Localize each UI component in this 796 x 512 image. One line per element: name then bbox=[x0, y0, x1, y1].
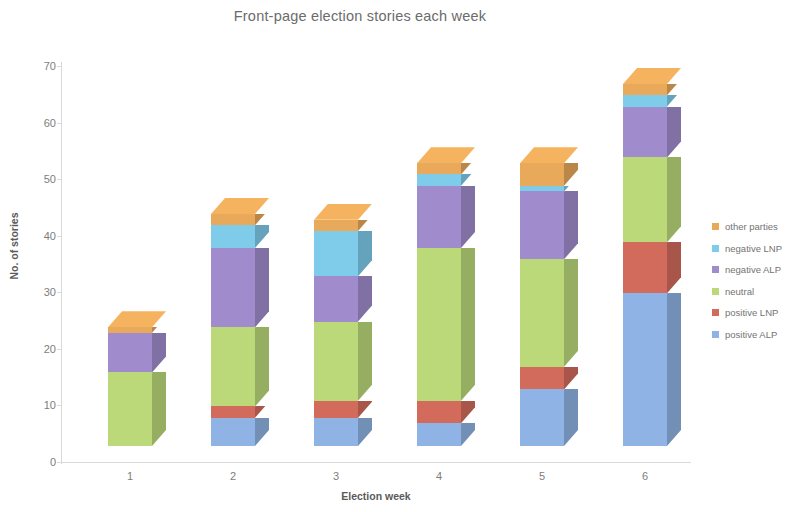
legend-item-label: negative ALP bbox=[725, 264, 781, 275]
bar-segment-face bbox=[623, 107, 667, 158]
legend-item[interactable]: negative LNP bbox=[712, 238, 796, 260]
bar-segment bbox=[211, 225, 255, 248]
bar-segment-face bbox=[108, 327, 152, 333]
bar-segment bbox=[623, 84, 667, 95]
bar-segment-face bbox=[211, 406, 255, 417]
bar-segment-side bbox=[564, 259, 578, 366]
bar-segment-side bbox=[667, 242, 681, 293]
bar-segment-face bbox=[314, 418, 358, 446]
bar-segment bbox=[623, 95, 667, 106]
bar-segment-face bbox=[623, 95, 667, 106]
bar-segment bbox=[314, 276, 358, 321]
bar-segment bbox=[623, 107, 667, 158]
bar-segment-side bbox=[358, 322, 372, 401]
y-axis-tick-mark bbox=[57, 179, 61, 180]
legend-swatch-icon bbox=[712, 309, 719, 316]
legend-item[interactable]: positive ALP bbox=[712, 324, 796, 346]
bar-segment-face bbox=[211, 418, 255, 446]
bar-segment bbox=[314, 220, 358, 231]
bar-segment-face bbox=[520, 186, 564, 192]
y-axis-tick-label: 0 bbox=[12, 456, 56, 468]
bar-segment bbox=[520, 259, 564, 366]
bar-segment-side bbox=[667, 84, 681, 95]
bar-segment-face bbox=[314, 231, 358, 276]
y-axis-tick-mark bbox=[57, 462, 61, 463]
bar-segment-face bbox=[211, 225, 255, 248]
y-axis-tick-mark bbox=[57, 292, 61, 293]
bar-segment-side bbox=[461, 186, 475, 248]
y-axis-tick-mark bbox=[57, 236, 61, 237]
bar-segment-face bbox=[211, 214, 255, 225]
legend-item[interactable]: other parties bbox=[712, 216, 796, 238]
bar-segment-face bbox=[520, 367, 564, 390]
bar-segment-face bbox=[108, 372, 152, 446]
y-axis-tick-label: 40 bbox=[12, 230, 56, 242]
bar-segment bbox=[108, 327, 152, 333]
bar-segment-side bbox=[667, 95, 681, 106]
bar-segment bbox=[520, 186, 564, 192]
bar-segment-side bbox=[564, 389, 578, 446]
bar-column-week-6 bbox=[623, 0, 681, 512]
legend-item-label: positive LNP bbox=[725, 307, 778, 318]
bar-segment bbox=[623, 293, 667, 446]
bar-segment-face bbox=[314, 276, 358, 321]
bar-segment-face bbox=[314, 322, 358, 401]
bar-segment-side bbox=[255, 327, 269, 406]
chart-legend: other partiesnegative LNPnegative ALPneu… bbox=[712, 216, 796, 345]
bar-segment-side bbox=[152, 333, 166, 373]
bar-segment-face bbox=[520, 389, 564, 446]
y-axis-tick-mark bbox=[57, 405, 61, 406]
bar-top-face bbox=[417, 147, 475, 163]
bar-segment bbox=[417, 423, 461, 446]
bar-segment-side bbox=[461, 163, 475, 174]
legend-swatch-icon bbox=[712, 288, 719, 295]
bar-segment-side bbox=[255, 225, 269, 248]
y-axis-tick-label: 70 bbox=[12, 60, 56, 72]
legend-item[interactable]: negative ALP bbox=[712, 259, 796, 281]
bar-segment bbox=[417, 401, 461, 424]
bar-segment-face bbox=[417, 186, 461, 248]
y-axis-tick-label: 60 bbox=[12, 117, 56, 129]
legend-swatch-icon bbox=[712, 331, 719, 338]
bar-column-week-1 bbox=[108, 0, 166, 512]
bar-segment-side bbox=[667, 107, 681, 158]
bar-segment-side bbox=[667, 293, 681, 446]
bar-segment bbox=[108, 372, 152, 446]
chart-container: Front-page election stories each week No… bbox=[0, 0, 796, 512]
legend-item[interactable]: positive LNP bbox=[712, 302, 796, 324]
bar-top-face bbox=[108, 311, 166, 327]
bar-top-face bbox=[211, 198, 269, 214]
bar-segment-face bbox=[623, 84, 667, 95]
bar-column-week-3 bbox=[314, 0, 372, 512]
bar-segment bbox=[417, 163, 461, 174]
legend-item[interactable]: neutral bbox=[712, 281, 796, 303]
bar-top-face bbox=[520, 147, 578, 163]
bar-segment bbox=[520, 389, 564, 446]
bar-segment-side bbox=[564, 163, 578, 186]
bar-segment-side bbox=[255, 418, 269, 446]
y-axis-tick-label: 20 bbox=[12, 343, 56, 355]
bar-segment bbox=[108, 333, 152, 373]
bar-segment bbox=[211, 418, 255, 446]
bar-segment-side bbox=[667, 157, 681, 242]
bar-segment-face bbox=[623, 157, 667, 242]
y-axis-tick-mark bbox=[57, 123, 61, 124]
legend-item-label: other parties bbox=[725, 221, 778, 232]
bar-segment bbox=[211, 248, 255, 327]
legend-swatch-icon bbox=[712, 266, 719, 273]
bar-segment-face bbox=[211, 327, 255, 406]
bar-segment bbox=[211, 214, 255, 225]
legend-item-label: negative LNP bbox=[725, 243, 782, 254]
legend-swatch-icon bbox=[712, 245, 719, 252]
bar-segment-face bbox=[417, 174, 461, 185]
bar-segment-side bbox=[461, 248, 475, 401]
bar-segment-face bbox=[623, 242, 667, 293]
bar-segment bbox=[417, 248, 461, 401]
bar-segment bbox=[520, 191, 564, 259]
bar-segment-side bbox=[564, 367, 578, 390]
bar-segment-face bbox=[417, 248, 461, 401]
legend-item-label: positive ALP bbox=[725, 329, 777, 340]
bar-segment bbox=[417, 174, 461, 185]
bar-segment bbox=[314, 418, 358, 446]
bar-segment-side bbox=[152, 372, 166, 446]
